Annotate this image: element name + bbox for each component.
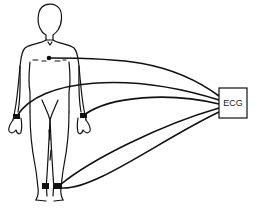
left-ankle-lead bbox=[62, 112, 219, 188]
right-wrist-electrode bbox=[13, 114, 20, 119]
right-ankle-electrode bbox=[42, 183, 49, 189]
left-wrist-lead bbox=[84, 97, 219, 115]
right-ankle-lead bbox=[60, 108, 219, 185]
ecg-diagram bbox=[0, 0, 255, 224]
chest-lead bbox=[49, 58, 219, 96]
ecg-device-label: ECG bbox=[219, 88, 247, 118]
